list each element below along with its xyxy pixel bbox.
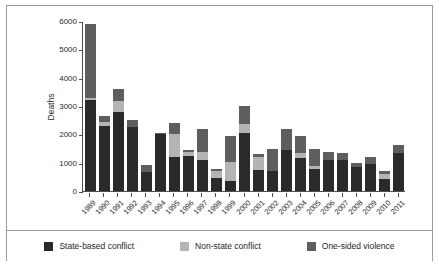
bar-segment-onesided [127, 120, 138, 127]
legend-swatch-state [44, 242, 53, 251]
bar-segment-nonstate [169, 134, 180, 158]
y-axis-title: Deaths [47, 22, 56, 192]
bar-1995[interactable] [169, 123, 180, 191]
bar-segment-nonstate [211, 171, 222, 178]
y-axis-title-wrap: Deaths [0, 22, 20, 192]
x-axis-tick [187, 193, 188, 197]
legend-swatch-onesided [307, 242, 316, 251]
x-axis-tick [384, 193, 385, 197]
bar-segment-state [267, 171, 278, 191]
bar-segment-state [211, 178, 222, 191]
bar-segment-state [393, 153, 404, 191]
bar-1999[interactable] [225, 136, 236, 191]
bar-segment-state [155, 134, 166, 191]
bar-2009[interactable] [365, 157, 376, 191]
x-axis-tick [370, 193, 371, 197]
legend-item-nonstate[interactable]: Non-state conflict [180, 242, 261, 251]
y-axis-tick [79, 79, 83, 80]
bar-segment-nonstate [253, 157, 264, 170]
chart-legend: State-based conflictNon-state conflictOn… [7, 230, 432, 261]
bar-2005[interactable] [309, 149, 320, 191]
x-axis-tick [215, 193, 216, 197]
bar-2003[interactable] [281, 129, 292, 191]
y-axis-tick-label: 6000 [59, 18, 77, 26]
bar-1993[interactable] [141, 165, 152, 191]
bar-segment-state [197, 160, 208, 191]
y-axis-tick-label: 2000 [59, 131, 77, 139]
bar-2010[interactable] [379, 171, 390, 191]
x-axis-label-2011: 2011 [390, 199, 407, 216]
x-axis-tick [131, 193, 132, 197]
bar-segment-state [99, 126, 110, 191]
bar-segment-nonstate [197, 152, 208, 159]
legend-item-state[interactable]: State-based conflict [44, 242, 134, 251]
bar-segment-state [295, 158, 306, 191]
bar-1989[interactable] [85, 24, 96, 191]
bar-segment-state [281, 150, 292, 191]
bar-segment-onesided [197, 129, 208, 152]
bar-segment-onesided [365, 157, 376, 164]
bar-segment-state [239, 133, 250, 191]
x-axis-tick [145, 193, 146, 197]
chart-figure: Deaths 0100020003000400050006000 1989199… [0, 0, 439, 266]
x-axis-tick [229, 193, 230, 197]
bar-2007[interactable] [337, 153, 348, 191]
legend-label-state: State-based conflict [59, 242, 134, 251]
bar-2001[interactable] [253, 154, 264, 191]
x-axis-tick [342, 193, 343, 197]
x-axis-tick [117, 193, 118, 197]
bar-2008[interactable] [351, 163, 362, 191]
legend-label-nonstate: Non-state conflict [195, 242, 261, 251]
x-axis-tick [103, 193, 104, 197]
bar-2004[interactable] [295, 136, 306, 191]
bar-segment-onesided [295, 136, 306, 154]
legend-item-onesided[interactable]: One-sided violence [307, 242, 395, 251]
x-axis-tick [272, 193, 273, 197]
bar-1998[interactable] [211, 169, 222, 191]
x-axis-tick [286, 193, 287, 197]
bar-segment-state [379, 179, 390, 191]
x-axis-tick [89, 193, 90, 197]
bar-2000[interactable] [239, 106, 250, 191]
y-axis-tick-label: 1000 [59, 160, 77, 168]
bar-segment-state [337, 160, 348, 191]
bar-segment-onesided [239, 106, 250, 124]
bar-segment-onesided [281, 129, 292, 151]
bar-segment-state [225, 181, 236, 191]
bar-2002[interactable] [267, 149, 278, 191]
x-axis-tick [314, 193, 315, 197]
x-axis-tick [173, 193, 174, 197]
plot-area: 0100020003000400050006000 [82, 22, 405, 192]
bar-segment-nonstate [225, 162, 236, 181]
x-axis-tick [258, 193, 259, 197]
bar-segment-onesided [267, 149, 278, 171]
bar-1992[interactable] [127, 120, 138, 191]
bar-segment-onesided [323, 152, 334, 161]
bar-segment-state [253, 170, 264, 191]
bar-segment-nonstate [239, 124, 250, 133]
bar-segment-state [309, 169, 320, 191]
bar-segment-state [85, 100, 96, 191]
x-axis-tick [328, 193, 329, 197]
bar-segment-state [127, 127, 138, 191]
bar-1991[interactable] [113, 89, 124, 191]
y-axis-tick [79, 50, 83, 51]
x-axis-tick [398, 193, 399, 197]
bar-1990[interactable] [99, 116, 110, 191]
bar-segment-onesided [337, 153, 348, 160]
y-axis-tick [79, 22, 83, 23]
x-axis-tick [244, 193, 245, 197]
legend-label-onesided: One-sided violence [322, 242, 395, 251]
bar-segment-onesided [169, 123, 180, 133]
bar-2011[interactable] [393, 145, 404, 191]
x-axis-tick [159, 193, 160, 197]
bar-segment-state [169, 157, 180, 191]
bar-segment-state [141, 172, 152, 191]
bar-segment-onesided [393, 145, 404, 153]
bar-2006[interactable] [323, 152, 334, 191]
bar-1996[interactable] [183, 150, 194, 191]
bar-1997[interactable] [197, 129, 208, 191]
bar-1994[interactable] [155, 133, 166, 191]
bar-segment-onesided [85, 24, 96, 98]
x-axis-tick [300, 193, 301, 197]
